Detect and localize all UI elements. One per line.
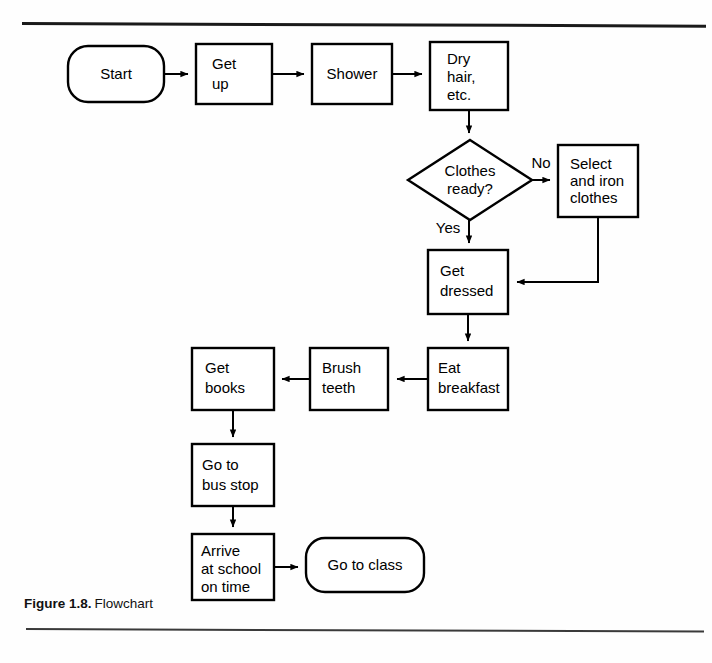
figure-caption-title: Flowchart — [95, 596, 154, 611]
get-dressed-label-line2: dressed — [440, 282, 493, 299]
node-go-to-class[interactable]: Go to class — [306, 538, 424, 592]
select-iron-label-line1: Select — [570, 155, 613, 172]
node-get-up[interactable]: Get up — [196, 44, 272, 104]
brush-teeth-label-line1: Brush — [322, 359, 361, 376]
arrive-at-school-label-line1: Arrive — [201, 542, 240, 559]
node-eat-breakfast[interactable]: Eat breakfast — [428, 348, 508, 410]
figure-caption: Figure 1.8.Flowchart — [24, 596, 153, 611]
dry-hair-label-line3: etc. — [447, 86, 471, 103]
node-get-books[interactable]: Get books — [192, 348, 274, 410]
clothes-ready-label-line1: Clothes — [445, 162, 496, 179]
go-to-bus-stop-label-line2: bus stop — [202, 476, 259, 493]
figure-caption-number: Figure 1.8. — [24, 596, 92, 611]
dry-hair-label-line2: hair, — [447, 68, 475, 85]
shower-label: Shower — [327, 65, 378, 82]
select-iron-label-line2: and iron — [570, 172, 624, 189]
node-shower[interactable]: Shower — [312, 44, 392, 104]
node-select-iron-clothes[interactable]: Select and iron clothes — [558, 145, 638, 217]
go-to-bus-stop-label-line1: Go to — [202, 456, 239, 473]
node-brush-teeth[interactable]: Brush teeth — [310, 348, 388, 410]
get-dressed-label-line1: Get — [440, 262, 465, 279]
edge-label-yes: Yes — [436, 219, 460, 236]
node-dry-hair[interactable]: Dry hair, etc. — [430, 42, 508, 110]
flowchart-canvas: Start Get up Shower Dry hair, etc. Cloth… — [0, 0, 712, 663]
edge-label-no: No — [531, 154, 550, 171]
get-up-shape — [196, 44, 272, 104]
brush-teeth-label-line2: teeth — [322, 379, 355, 396]
select-iron-label-line3: clothes — [570, 189, 618, 206]
node-arrive-at-school[interactable]: Arrive at school on time — [192, 534, 274, 600]
node-start[interactable]: Start — [68, 46, 164, 102]
node-clothes-ready-decision[interactable]: Clothes ready? — [408, 140, 532, 220]
arrive-at-school-label-line2: at school — [201, 560, 261, 577]
arrive-at-school-label-line3: on time — [201, 578, 250, 595]
edge-select-to-dressed — [517, 217, 598, 282]
dry-hair-label-line1: Dry — [447, 50, 471, 67]
eat-breakfast-label-line1: Eat — [438, 359, 461, 376]
get-up-label-line1: Get — [212, 55, 237, 72]
clothes-ready-label-line2: ready? — [447, 180, 493, 197]
go-to-class-label: Go to class — [327, 556, 402, 573]
get-books-label-line2: books — [205, 379, 245, 396]
start-label: Start — [100, 65, 133, 82]
node-get-dressed[interactable]: Get dressed — [428, 250, 508, 314]
figure-page: Start Get up Shower Dry hair, etc. Cloth… — [0, 0, 712, 663]
get-up-label-line2: up — [212, 75, 229, 92]
eat-breakfast-label-line2: breakfast — [438, 379, 501, 396]
get-books-label-line1: Get — [205, 359, 230, 376]
node-go-to-bus-stop[interactable]: Go to bus stop — [192, 444, 274, 506]
